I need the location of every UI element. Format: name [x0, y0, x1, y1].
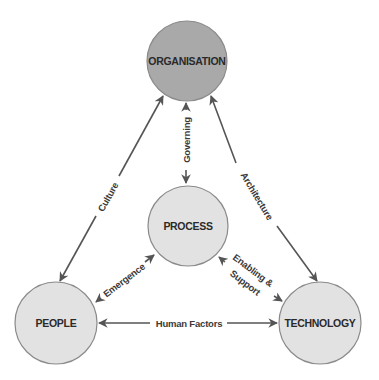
node-organisation: ORGANISATION — [147, 21, 227, 101]
organisation-label: ORGANISATION — [148, 55, 225, 67]
emergence-label: Emergence — [101, 261, 147, 300]
edge-culture: Culture — [60, 96, 163, 281]
emergence-arrow-right — [145, 255, 154, 262]
socio-technical-diagram: Culture Architecture Governing Emergence… — [0, 0, 379, 380]
architecture-label: Architecture — [238, 170, 275, 222]
edge-emergence: Emergence — [96, 255, 154, 302]
people-label: PEOPLE — [36, 317, 77, 329]
enabling-support-arrow-lower — [274, 296, 282, 301]
node-process: PROCESS — [148, 186, 228, 266]
governing-label: Governing — [181, 117, 192, 163]
node-people: PEOPLE — [15, 282, 97, 364]
node-technology: TECHNOLOGY — [279, 282, 361, 364]
edge-human-factors: Human Factors — [99, 318, 277, 329]
architecture-arrow-lower — [277, 226, 317, 281]
architecture-arrow-upper — [211, 96, 236, 163]
process-label: PROCESS — [163, 220, 213, 232]
emergence-arrow-left — [96, 298, 101, 302]
culture-arrow-lower — [60, 216, 96, 281]
enabling-support-arrow-upper — [219, 257, 225, 262]
edge-architecture: Architecture — [211, 96, 317, 281]
human-factors-label: Human Factors — [156, 318, 223, 329]
edge-governing: Governing — [181, 103, 192, 183]
culture-label: Culture — [95, 180, 120, 213]
edge-enabling-support: Enabling & Support — [219, 251, 282, 301]
technology-label: TECHNOLOGY — [284, 317, 355, 329]
culture-arrow — [119, 96, 163, 176]
